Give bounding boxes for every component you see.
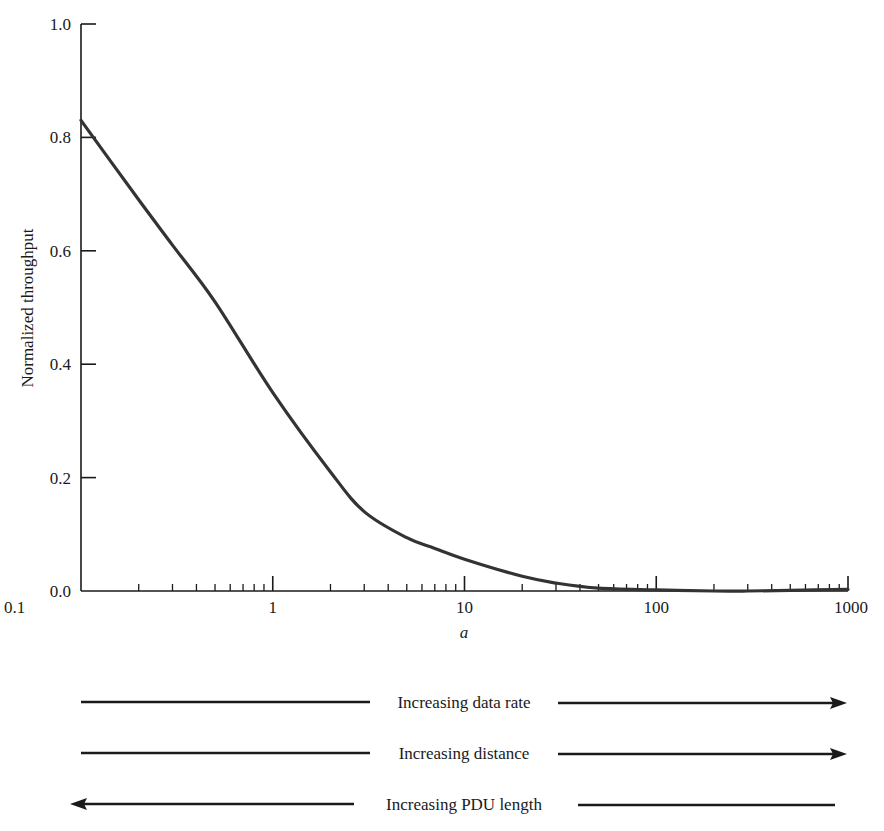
throughput-chart: 0.11101001000 0.00.20.40.60.81.0 a Norma… [0, 0, 884, 831]
x-tick-label: 100 [644, 598, 670, 617]
arrow-label: Increasing PDU length [386, 795, 542, 814]
arrow-increasing-data-rate: Increasing data rate [81, 693, 847, 712]
x-axis-ticks: 0.11101001000 [4, 576, 868, 617]
y-axis-title: Normalized throughput [18, 228, 37, 387]
throughput-curve [81, 120, 848, 591]
y-tick-label: 0.6 [50, 242, 71, 261]
x-tick-label: 0.1 [4, 598, 25, 617]
arrow-increasing-distance: Increasing distance [81, 744, 847, 763]
x-tick-label: 1000 [834, 598, 868, 617]
y-tick-label: 0.8 [50, 128, 71, 147]
arrow-label: Increasing data rate [397, 693, 530, 712]
y-tick-label: 0.2 [50, 469, 71, 488]
y-tick-label: 0.0 [50, 582, 71, 601]
axes [81, 24, 848, 591]
y-tick-label: 0.4 [50, 355, 72, 374]
arrow-label: Increasing distance [399, 744, 530, 763]
x-axis-title: a [460, 623, 469, 642]
y-axis-ticks: 0.00.20.40.60.81.0 [50, 15, 96, 601]
x-tick-label: 10 [456, 598, 473, 617]
x-tick-label: 1 [269, 598, 278, 617]
y-tick-label: 1.0 [50, 15, 71, 34]
annotation-arrows: Increasing data rateIncreasing distanceI… [70, 693, 847, 814]
arrow-increasing-pdu-length: Increasing PDU length [70, 795, 835, 814]
